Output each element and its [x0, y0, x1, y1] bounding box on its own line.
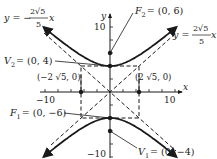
f1-leader	[64, 113, 110, 118]
v1-label: V1= (0, −4)	[138, 146, 195, 159]
hyperbola-diagram: x y −10 10 10 −10 F2= (0, 6)	[0, 0, 217, 159]
right-point-label: (2 √5, 0)	[135, 72, 171, 82]
axes: x y −10 10 10 −10	[36, 11, 188, 159]
v2-leader	[55, 61, 110, 66]
x-tick-label-pos: 10	[164, 95, 176, 105]
v2-label: V2= (0, 4)	[4, 55, 53, 69]
y-tick-label-neg: −10	[87, 149, 106, 159]
f2-leader	[110, 13, 133, 53]
svg-text:x: x	[49, 12, 55, 23]
f2-label: F2= (0, 6)	[134, 5, 183, 19]
f1-label: F1= (0, −6)	[9, 107, 66, 121]
svg-text:x: x	[211, 29, 217, 40]
svg-text:2√5: 2√5	[193, 24, 208, 33]
asymptote-positive	[51, 33, 176, 145]
x-axis-label: x	[183, 82, 188, 92]
svg-text:5: 5	[36, 20, 41, 29]
svg-text:5: 5	[199, 37, 204, 46]
left-point-label: (−2 √5, 0)	[37, 72, 81, 82]
asymptote-positive-label: y = 2√5 5 x	[172, 24, 217, 46]
y-axis-label: y	[100, 11, 107, 21]
v1-leader	[110, 131, 137, 148]
svg-text:y =: y =	[172, 29, 189, 40]
asymptote-negative-label: y = − 2√5 5 x	[3, 7, 55, 29]
svg-text:y = −: y = −	[3, 12, 31, 23]
svg-text:2√5: 2√5	[30, 7, 45, 16]
y-tick-label-pos: 10	[94, 22, 106, 32]
x-tick-label-neg: −10	[36, 95, 55, 105]
